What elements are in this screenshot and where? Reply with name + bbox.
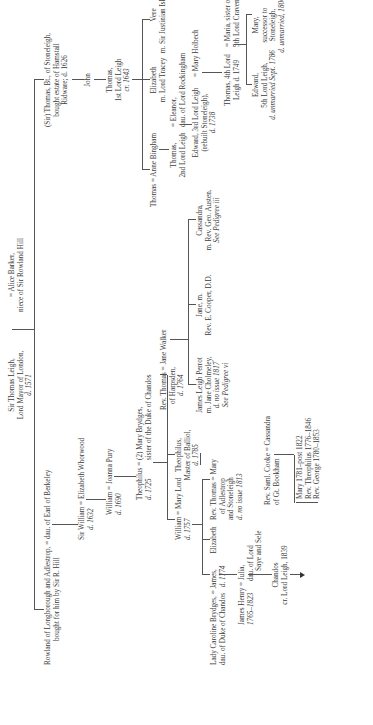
name: Sir Thomas Leigh,	[8, 325, 17, 445]
title: 2nd Lord Leigh	[179, 125, 188, 185]
death: d. no issue 1813	[236, 459, 245, 520]
james-descent	[219, 574, 237, 575]
node-theophilus-balliol: Theophilus, Master of Balliol, d. 1785	[175, 420, 201, 490]
sir-thomas-bt-descent	[72, 79, 84, 80]
name: James Leigh Perrot	[196, 340, 205, 430]
name-text: James Leigh Perrot	[196, 357, 204, 413]
node-rev-saml-cooke: Rev. Saml. Cooke = Cassandra of Gt. Book…	[264, 416, 281, 505]
name: Theophilus,	[175, 420, 184, 490]
thomas-2nd-descent	[180, 124, 192, 125]
node-rev-thomas-adlestrop: Rev. Thomas = Mary of Adlestrop and Ston…	[210, 459, 244, 520]
node-thomas-2nd-lord: Thomas, 2nd Lord Leigh	[170, 125, 187, 185]
node-cassandra-austen: Cassandra, m. Rev. Geo. Austen. See Pedi…	[196, 175, 222, 265]
death: Leigh d. 1749	[233, 40, 242, 120]
name: Rowland of Longborough and Adlestrop, = …	[44, 470, 53, 665]
jane-cooper-drop	[188, 304, 196, 305]
cooke-children-bracket	[296, 502, 318, 503]
cooke-descent	[274, 454, 294, 455]
node-james-henry: James Henry = Julia, 1765–1823dau. of Lo…	[238, 531, 264, 625]
spouse: m. Rev. Geo. Austen.	[205, 175, 214, 265]
elizabeth-tracy-drop	[142, 79, 150, 80]
child-george: Rev. George 1780–1853	[313, 418, 322, 499]
name: (Sir) Thomas, Bt., of Stoneleigh,	[44, 15, 53, 145]
place2: and Stoneleigh	[227, 459, 236, 520]
death: d. 1725	[145, 460, 154, 500]
node-thomas-anne: Thomas = Anne Bingham	[150, 125, 159, 215]
rowland-descent	[52, 524, 78, 525]
death: Ridware; d. 1626	[61, 15, 70, 145]
name: William = Joanna Pury	[106, 449, 115, 515]
node-chandos: Chandos cr. Lord Leigh, 1839	[272, 530, 289, 620]
name: Thomas,	[106, 45, 115, 115]
relation: dau. of Lord Rockingham	[179, 53, 188, 127]
see-pedigree-link[interactable]: See Pedigree iii	[213, 175, 222, 265]
chandos-descent	[290, 574, 300, 575]
name: Theophilus = (2) Mary Brydges,	[136, 374, 145, 500]
anne-drop	[142, 169, 150, 170]
node-rev-thomas-jane: Rev. Thomas = Jane Walker of Harpsden, d…	[160, 330, 186, 410]
death: d. 1764	[177, 330, 186, 410]
spouse: m. Jane Cholmeley,	[205, 340, 214, 430]
node-rowland: Rowland of Longborough and Adlestrop, = …	[44, 470, 61, 665]
name: Thomas, 4th Lord	[224, 40, 233, 120]
edward-3rd-descent	[202, 72, 222, 73]
theophilus-descent	[153, 462, 167, 463]
node-sir-thomas-leigh: Sir Thomas Leigh, Lord Mayor of London, …	[8, 325, 34, 445]
name: Thomas,	[170, 125, 179, 185]
james-henry-descent	[248, 574, 272, 575]
note: bought for him by Sir R. Hill	[53, 470, 62, 665]
relation: niece of Sir Rowland Hill	[17, 215, 26, 335]
john-descent	[94, 79, 106, 80]
node-thomas-1st-lord: Thomas, 1st Lord Leigh cr. 1643	[106, 45, 132, 115]
rev-thomas-descent	[170, 339, 188, 340]
note: successor to	[261, 0, 270, 65]
name: Sir William = Elizabeth Whorwood	[78, 438, 87, 540]
place: of Adlestrop	[219, 459, 228, 520]
place: of Gt. Bookham	[273, 416, 282, 505]
rowland-drop	[34, 609, 44, 610]
node-edward-3rd-lord: Edward, 3rd Lord Leigh (rebuilt Stonelei…	[192, 75, 218, 170]
child-mary: Mary 1781–post 1822	[296, 418, 305, 499]
estate: Stoneleigh,	[269, 0, 278, 65]
name: = Mary Holbech	[192, 29, 201, 77]
james-perrot-drop	[188, 384, 196, 385]
node-jane-cooper: Jane, m. Rev. E. Cooper, D.D.	[196, 260, 213, 350]
death: d. unmarried, 1806	[278, 0, 287, 65]
relation2: Saye and Sele	[255, 531, 264, 625]
name: Thomas = Anne Bingham	[150, 125, 159, 215]
node-eleanor: = Eleanor, dau. of Lord Rockingham	[170, 53, 187, 127]
root-descent-line	[12, 329, 34, 330]
william-mary-lord-descent	[192, 524, 202, 525]
elizabeth-b-drop	[202, 539, 210, 540]
title: Master of Balliol,	[184, 420, 193, 490]
title: 1st Lord Leigh	[115, 45, 124, 115]
node-lady-caroline-james: Lady Caroline Brydges, = James, dau. of …	[210, 566, 227, 665]
see-pedigree-link[interactable]: See Pedigree vi	[222, 340, 231, 430]
title: Lord Mayor of London,	[17, 325, 26, 445]
vere-drop	[142, 19, 150, 20]
death: d. 1571	[25, 325, 34, 445]
relation: dau. of Duke of Chandos	[219, 593, 227, 665]
theophilus-balliol-drop	[167, 454, 175, 455]
list-cooke-children: Mary 1781–post 1822 Rev. Theophilus 1776…	[296, 418, 322, 499]
node-james-leigh-perrot: James Leigh Perrot m. Jane Cholmeley, d.…	[196, 340, 230, 430]
thomas-1st-children-bar	[142, 20, 143, 170]
relation: dau. of Lord	[247, 545, 255, 581]
cassandra-austen-drop	[188, 219, 196, 220]
note: bought estate of Hamstall	[53, 15, 62, 145]
sir-william-descent	[86, 499, 106, 500]
spouse: Rev. E. Cooper, D.D.	[205, 260, 214, 350]
node-vere: Vere m. Sir Justinian Isham, Bt.	[150, 0, 167, 65]
death: d. 1774	[219, 566, 227, 592]
william-children-bar	[202, 480, 203, 575]
name: John	[84, 60, 93, 100]
rev-thomas-adlestrop-drop	[202, 479, 210, 480]
node-thomas-4th-lord: Thomas, 4th Lord Leigh d. 1749	[224, 40, 241, 120]
name: Jane, m.	[196, 260, 205, 350]
creation: cr. 1643	[123, 45, 132, 115]
anne-descent	[159, 149, 169, 150]
node-theophilus-1725: Theophilus = (2) Mary Brydges, d. 1725si…	[136, 374, 153, 500]
pedigree-page: Sir Thomas Leigh, Lord Mayor of London, …	[0, 0, 373, 725]
sir-thomas-bt-drop	[34, 79, 44, 80]
name: Vere	[150, 0, 159, 65]
